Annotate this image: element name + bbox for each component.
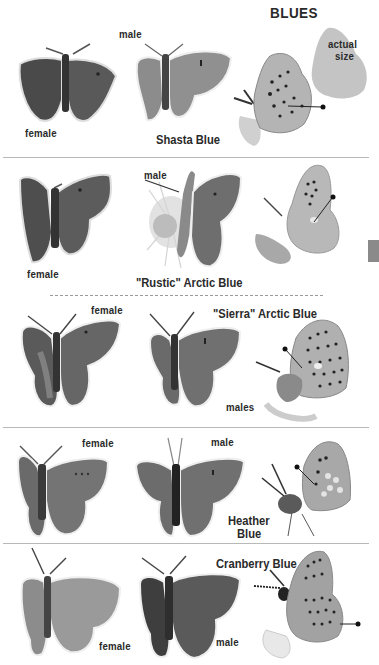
butterfly-shasta-male-icon <box>135 42 235 122</box>
specimen-label-male: male <box>216 636 239 648</box>
row-divider <box>3 543 369 544</box>
specimen-label-female: female <box>25 127 57 139</box>
specimen-label-male: male <box>119 28 142 40</box>
actual-size-label-line2: size <box>335 50 354 62</box>
row-divider <box>3 157 369 158</box>
butterfly-rustic-female-icon <box>18 172 114 264</box>
species-name-heather-blue-line2: Blue <box>237 526 261 541</box>
specimen-label-males: males <box>226 401 254 413</box>
row-divider <box>3 427 369 428</box>
section-title: BLUES <box>270 4 318 21</box>
specimen-label-female: female <box>99 640 131 652</box>
specimen-label-female: female <box>27 268 59 280</box>
butterfly-shasta-ventral-icon <box>232 50 332 147</box>
species-name-sierra-arctic-blue: "Sierra" Arctic Blue <box>213 306 317 321</box>
actual-size-label-line1: actual <box>328 38 357 50</box>
butterfly-rustic-ventral-icon <box>252 164 352 264</box>
species-name-rustic-arctic-blue: "Rustic" Arctic Blue <box>136 275 242 290</box>
butterfly-heather-ventral-icon <box>258 440 358 538</box>
butterfly-heather-female-icon <box>16 446 112 538</box>
butterfly-sierra-male-icon <box>148 312 244 408</box>
subspecies-divider <box>50 295 323 296</box>
species-name-shasta-blue: Shasta Blue <box>156 132 220 147</box>
butterfly-shasta-female-icon <box>18 40 118 126</box>
butterfly-rustic-male-icon <box>145 170 245 270</box>
specimen-label-male: male <box>144 169 167 181</box>
butterfly-sierra-female-icon <box>20 312 124 408</box>
section-thumb-tab <box>368 240 379 262</box>
butterfly-sierra-ventral-icon <box>256 318 356 422</box>
species-name-cranberry-blue: Cranberry Blue <box>216 556 297 571</box>
